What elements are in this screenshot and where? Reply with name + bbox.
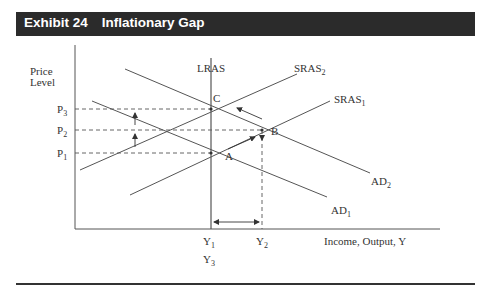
point-a-dot xyxy=(209,151,212,154)
point-c-label: C xyxy=(213,92,220,104)
ad2-label: AD2 xyxy=(371,175,391,190)
point-b-label: B xyxy=(271,125,278,137)
a-to-b-arrow-icon xyxy=(228,137,255,149)
point-c-dot xyxy=(209,107,212,110)
y-axis-label-line2: Level xyxy=(30,76,55,88)
point-b-dot xyxy=(260,128,263,131)
lras-label: LRAS xyxy=(197,62,225,74)
y2-label: Y2 xyxy=(256,235,268,250)
y3-label: Y3 xyxy=(203,253,215,268)
sras2-label: SRAS2 xyxy=(294,62,326,77)
p3-label: P3 xyxy=(57,103,67,118)
p1-label: P1 xyxy=(57,147,67,162)
bottom-rule xyxy=(16,283,475,285)
ad1-label: AD1 xyxy=(331,204,351,219)
p2-label: P2 xyxy=(57,124,67,139)
inflationary-gap-diagram: Price Level Income, Output, Y P3 P2 P1 Y… xyxy=(0,0,494,295)
x-axis-label: Income, Output, Y xyxy=(324,235,406,247)
sras1-label: SRAS1 xyxy=(334,93,366,108)
y1-label: Y1 xyxy=(203,235,215,250)
point-a-label: A xyxy=(225,150,233,162)
ad2-line xyxy=(125,69,370,173)
b-to-c-arrow-icon xyxy=(237,108,262,119)
sras2-line xyxy=(80,74,297,170)
